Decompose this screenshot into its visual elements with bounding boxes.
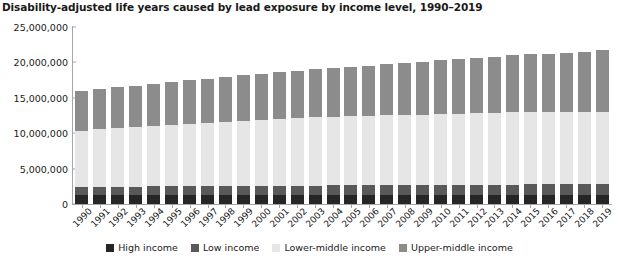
legend-item-low-income[interactable]: Low income xyxy=(191,242,260,253)
bar-segment-low-income[interactable] xyxy=(524,184,537,194)
bar-segment-upper-middle-income[interactable] xyxy=(183,80,196,123)
bar-segment-lower-middle-income[interactable] xyxy=(165,125,178,187)
bar-segment-low-income[interactable] xyxy=(380,185,393,195)
bar-segment-low-income[interactable] xyxy=(201,186,214,195)
bar-segment-low-income[interactable] xyxy=(111,187,124,195)
bar-segment-upper-middle-income[interactable] xyxy=(434,60,447,114)
bar-segment-lower-middle-income[interactable] xyxy=(75,131,88,187)
bar-segment-low-income[interactable] xyxy=(344,185,357,194)
bar-segment-high-income[interactable] xyxy=(183,195,196,204)
bar-segment-upper-middle-income[interactable] xyxy=(309,69,322,117)
bar-segment-upper-middle-income[interactable] xyxy=(452,59,465,114)
bar-segment-lower-middle-income[interactable] xyxy=(219,122,232,186)
bar-segment-high-income[interactable] xyxy=(596,195,609,204)
bar-segment-upper-middle-income[interactable] xyxy=(219,77,232,122)
bar-segment-lower-middle-income[interactable] xyxy=(506,112,519,184)
bar-segment-low-income[interactable] xyxy=(165,186,178,195)
bar-segment-lower-middle-income[interactable] xyxy=(398,115,411,185)
bar-segment-high-income[interactable] xyxy=(273,195,286,204)
bar-segment-lower-middle-income[interactable] xyxy=(93,129,106,186)
bar-segment-low-income[interactable] xyxy=(470,185,483,195)
bar-segment-upper-middle-income[interactable] xyxy=(578,52,591,112)
bar-segment-lower-middle-income[interactable] xyxy=(273,119,286,186)
bar-segment-upper-middle-income[interactable] xyxy=(93,89,106,129)
bar-segment-high-income[interactable] xyxy=(111,195,124,204)
bar-segment-low-income[interactable] xyxy=(578,184,591,194)
bar-segment-high-income[interactable] xyxy=(327,195,340,204)
bar-segment-upper-middle-income[interactable] xyxy=(380,64,393,115)
bar-segment-high-income[interactable] xyxy=(309,195,322,204)
bar-segment-high-income[interactable] xyxy=(398,195,411,204)
bar-segment-high-income[interactable] xyxy=(434,195,447,204)
bar-segment-lower-middle-income[interactable] xyxy=(255,120,268,186)
bar-segment-low-income[interactable] xyxy=(596,184,609,194)
bar-segment-lower-middle-income[interactable] xyxy=(560,112,573,185)
bar-segment-low-income[interactable] xyxy=(362,185,375,195)
bar-segment-high-income[interactable] xyxy=(291,195,304,204)
bar-segment-lower-middle-income[interactable] xyxy=(327,117,340,186)
bar-segment-upper-middle-income[interactable] xyxy=(201,79,214,123)
bar-segment-lower-middle-income[interactable] xyxy=(344,116,357,185)
bar-segment-lower-middle-income[interactable] xyxy=(452,114,465,185)
legend-item-high-income[interactable]: High income xyxy=(106,242,178,253)
bar-segment-high-income[interactable] xyxy=(578,195,591,204)
bar-segment-low-income[interactable] xyxy=(219,186,232,195)
bar-segment-high-income[interactable] xyxy=(416,195,429,204)
bar-segment-upper-middle-income[interactable] xyxy=(344,67,357,117)
bar-segment-high-income[interactable] xyxy=(362,195,375,204)
bar-segment-high-income[interactable] xyxy=(93,195,106,204)
bar-segment-upper-middle-income[interactable] xyxy=(596,50,609,112)
bar-segment-high-income[interactable] xyxy=(488,195,501,204)
bar-segment-lower-middle-income[interactable] xyxy=(542,112,555,184)
bar-segment-lower-middle-income[interactable] xyxy=(488,113,501,185)
bar-segment-upper-middle-income[interactable] xyxy=(237,75,250,120)
bar-segment-upper-middle-income[interactable] xyxy=(291,71,304,118)
bar-segment-high-income[interactable] xyxy=(344,195,357,204)
bar-segment-high-income[interactable] xyxy=(470,195,483,204)
bar-segment-low-income[interactable] xyxy=(416,185,429,195)
bar-segment-high-income[interactable] xyxy=(255,195,268,204)
bar-segment-upper-middle-income[interactable] xyxy=(111,87,124,128)
bar-segment-upper-middle-income[interactable] xyxy=(560,53,573,112)
bar-segment-high-income[interactable] xyxy=(506,195,519,204)
bar-segment-upper-middle-income[interactable] xyxy=(165,82,178,124)
bar-segment-lower-middle-income[interactable] xyxy=(578,112,591,185)
bar-segment-low-income[interactable] xyxy=(129,187,142,195)
bar-segment-lower-middle-income[interactable] xyxy=(596,112,609,185)
bar-segment-lower-middle-income[interactable] xyxy=(309,117,322,185)
bar-segment-upper-middle-income[interactable] xyxy=(255,74,268,120)
bar-segment-lower-middle-income[interactable] xyxy=(147,126,160,187)
bar-segment-low-income[interactable] xyxy=(398,185,411,195)
bar-segment-upper-middle-income[interactable] xyxy=(129,86,142,127)
bar-segment-upper-middle-income[interactable] xyxy=(470,58,483,114)
legend-item-upper-middle-income[interactable]: Upper-middle income xyxy=(399,242,513,253)
bar-segment-upper-middle-income[interactable] xyxy=(75,91,88,131)
bar-segment-low-income[interactable] xyxy=(273,186,286,195)
bar-segment-upper-middle-income[interactable] xyxy=(398,63,411,115)
bar-segment-lower-middle-income[interactable] xyxy=(291,118,304,186)
bar-segment-low-income[interactable] xyxy=(327,185,340,194)
bar-segment-high-income[interactable] xyxy=(201,195,214,204)
bar-segment-upper-middle-income[interactable] xyxy=(273,72,286,119)
bar-segment-high-income[interactable] xyxy=(560,195,573,204)
bar-segment-high-income[interactable] xyxy=(380,195,393,204)
bar-segment-lower-middle-income[interactable] xyxy=(129,127,142,186)
bar-segment-upper-middle-income[interactable] xyxy=(506,55,519,112)
bar-segment-low-income[interactable] xyxy=(255,186,268,195)
bar-segment-high-income[interactable] xyxy=(219,195,232,204)
bar-segment-lower-middle-income[interactable] xyxy=(362,116,375,185)
bar-segment-lower-middle-income[interactable] xyxy=(434,114,447,185)
legend-item-lower-middle-income[interactable]: Lower-middle income xyxy=(272,242,386,253)
bar-segment-lower-middle-income[interactable] xyxy=(201,123,214,187)
bar-segment-upper-middle-income[interactable] xyxy=(416,62,429,115)
bar-segment-low-income[interactable] xyxy=(434,185,447,195)
bar-segment-lower-middle-income[interactable] xyxy=(470,113,483,185)
bar-segment-high-income[interactable] xyxy=(75,195,88,204)
bar-segment-low-income[interactable] xyxy=(542,184,555,194)
bar-segment-upper-middle-income[interactable] xyxy=(327,68,340,117)
bar-segment-high-income[interactable] xyxy=(542,195,555,204)
bar-segment-low-income[interactable] xyxy=(309,186,322,195)
bar-segment-lower-middle-income[interactable] xyxy=(183,124,196,187)
bar-segment-low-income[interactable] xyxy=(560,184,573,194)
bar-segment-low-income[interactable] xyxy=(237,186,250,195)
